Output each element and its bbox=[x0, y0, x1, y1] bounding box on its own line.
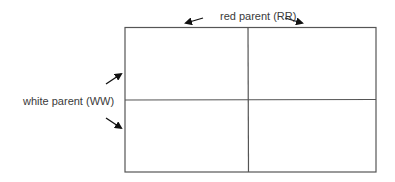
top-parent-label: red parent (RR) bbox=[220, 10, 296, 22]
arrow-up-right-icon bbox=[106, 74, 121, 84]
arrow-down-right-icon bbox=[106, 118, 121, 128]
grid-horizontal-divider bbox=[125, 100, 376, 101]
arrow-left-icon bbox=[186, 18, 203, 23]
left-parent-label: white parent (WW) bbox=[23, 95, 114, 107]
punnett-square-diagram bbox=[0, 0, 395, 182]
